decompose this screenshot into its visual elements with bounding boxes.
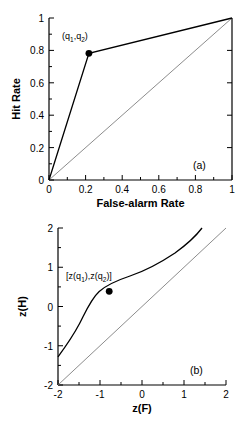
panel-a-xtick-0.2: 0.2 — [79, 184, 93, 195]
panel-a-ytick-0.6: 0.6 — [30, 78, 44, 89]
panel-b-ytick-neg1: -1 — [44, 341, 53, 352]
panel-b: 2 1 0 -1 -2 -2 -1 0 1 2 z(F) z(H) [z(q1)… — [0, 211, 243, 421]
panel-a-frame-ticks — [227, 18, 232, 180]
panel-b-xtick-neg2: -2 — [54, 389, 63, 400]
panel-a: 1 0.8 0.6 0.4 0.2 0 0 0.2 0.4 0.6 0.8 1 … — [0, 0, 243, 211]
panel-a-ytick-0.2: 0.2 — [30, 143, 44, 154]
panel-a-xtick-0.8: 0.8 — [188, 184, 202, 195]
panel-a-point-label-mid: ,q — [74, 31, 82, 41]
panel-a-ytick-0.4: 0.4 — [30, 110, 44, 121]
panel-b-point-label-mid: ),z(q — [85, 271, 103, 281]
panel-b-chance-diagonal — [58, 228, 226, 385]
panel-b-ytick-neg2: -2 — [44, 380, 53, 391]
panel-a-xtick-0.6: 0.6 — [152, 184, 166, 195]
panel-a-ytick-0: 0 — [38, 175, 44, 186]
panel-a-ytick-1: 1 — [38, 13, 44, 24]
panel-a-xlabel: False-alarm Rate — [96, 197, 184, 209]
panel-b-xtick-0: 0 — [139, 389, 145, 400]
panel-a-y-ticks — [49, 18, 54, 180]
panel-a-xtick-0: 0 — [46, 184, 52, 195]
panel-a-data-point — [86, 50, 93, 57]
panel-a-x-ticks — [49, 175, 232, 180]
panel-a-tag: (a) — [193, 159, 206, 171]
panel-a-point-label-suffix: ) — [85, 31, 88, 41]
panel-b-point-label-prefix: [z(q — [66, 271, 81, 281]
panel-b-xtick-2: 2 — [223, 389, 229, 400]
panel-b-x-ticks — [58, 380, 226, 385]
panel-b-roc-curve — [58, 228, 202, 357]
panel-b-point-label-suffix: )] — [106, 271, 112, 281]
panel-a-xtick-1: 1 — [229, 184, 235, 195]
panel-b-ytick-2: 2 — [47, 223, 53, 234]
panel-b-xtick-1: 1 — [181, 389, 187, 400]
panel-b-tag: (b) — [190, 364, 203, 376]
panel-b-ytick-0: 0 — [47, 302, 53, 313]
panel-b-y-ticks — [58, 228, 63, 385]
panel-a-ytick-0.8: 0.8 — [30, 45, 44, 56]
panel-b-plot: 2 1 0 -1 -2 -2 -1 0 1 2 z(F) z(H) [z(q1)… — [0, 211, 243, 421]
panel-a-plot: 1 0.8 0.6 0.4 0.2 0 0 0.2 0.4 0.6 0.8 1 … — [0, 0, 243, 211]
panel-b-ytick-1: 1 — [47, 262, 53, 273]
panel-b-point-label: [z(q1),z(q2)] — [66, 271, 112, 283]
panel-a-point-label: (q1,q2) — [62, 31, 88, 43]
panel-a-chance-diagonal — [49, 18, 232, 180]
panel-a-point-label-prefix: (q — [62, 31, 70, 41]
panel-a-xtick-0.4: 0.4 — [115, 184, 129, 195]
panel-b-ylabel: z(H) — [16, 296, 28, 317]
panel-a-ylabel: Hit Rate — [10, 78, 22, 120]
panel-b-data-point — [106, 288, 113, 295]
panel-b-xtick-neg1: -1 — [96, 389, 105, 400]
panel-b-xlabel: z(F) — [132, 402, 152, 414]
roc-figure: 1 0.8 0.6 0.4 0.2 0 0 0.2 0.4 0.6 0.8 1 … — [0, 0, 243, 421]
